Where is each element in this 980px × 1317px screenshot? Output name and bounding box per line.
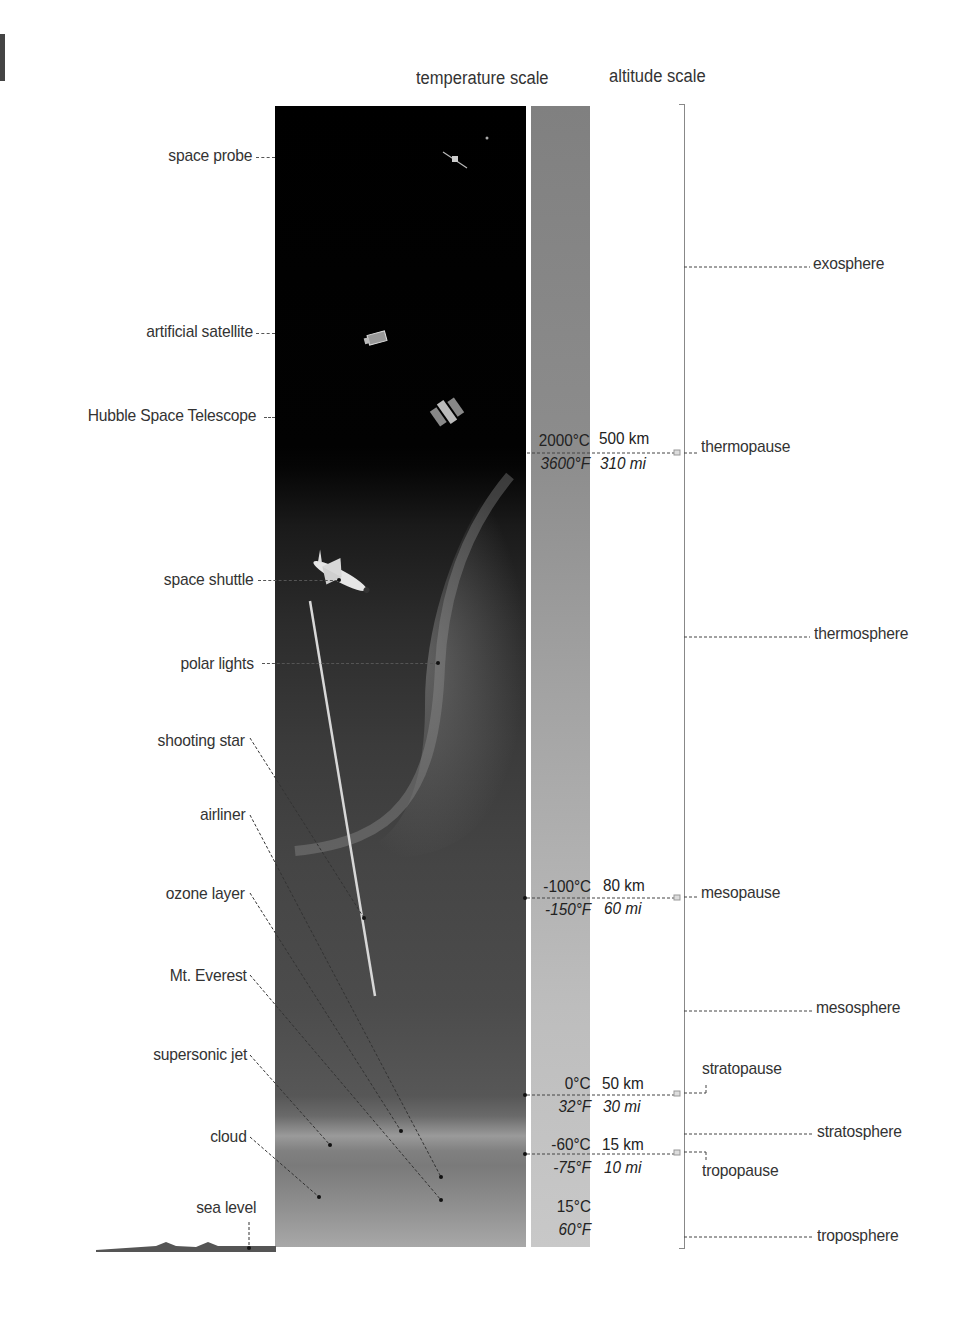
mesopause-alt-mi: 60 mi	[604, 899, 641, 919]
label-mesosphere: mesosphere	[816, 998, 900, 1018]
label-exosphere: exosphere	[813, 254, 884, 274]
stratopause-alt-km: 50 km	[602, 1074, 644, 1094]
thermopause-alt-mi: 310 mi	[600, 454, 646, 474]
surface-temp-f: 60°F	[559, 1220, 591, 1240]
stratopause-alt-mi: 30 mi	[603, 1097, 640, 1117]
label-stratopause: stratopause	[702, 1059, 782, 1079]
surface-temp-c: 15°C	[557, 1197, 591, 1217]
thermopause-temp-c: 2000°C	[539, 431, 590, 451]
tropopause-alt-km: 15 km	[602, 1135, 644, 1155]
tropopause-temp-c: -60°C	[552, 1135, 591, 1155]
stratopause-temp-f: 32°F	[559, 1097, 591, 1117]
thermopause-temp-f: 3600°F	[540, 454, 590, 474]
mesopause-alt-km: 80 km	[603, 876, 645, 896]
stratopause-temp-c: 0°C	[565, 1074, 591, 1094]
mesopause-temp-f: -150°F	[545, 900, 591, 920]
label-thermopause: thermopause	[701, 437, 790, 457]
label-mesopause: mesopause	[701, 883, 780, 903]
label-tropopause: tropopause	[702, 1161, 778, 1181]
leader-lines	[0, 0, 980, 1317]
thermopause-alt-km: 500 km	[599, 429, 649, 449]
label-thermosphere: thermosphere	[814, 624, 908, 644]
tropopause-alt-mi: 10 mi	[604, 1158, 641, 1178]
mesopause-temp-c: -100°C	[543, 877, 591, 897]
tropopause-temp-f: -75°F	[553, 1158, 591, 1178]
label-troposphere: troposphere	[817, 1226, 898, 1246]
label-stratosphere: stratosphere	[817, 1122, 902, 1142]
